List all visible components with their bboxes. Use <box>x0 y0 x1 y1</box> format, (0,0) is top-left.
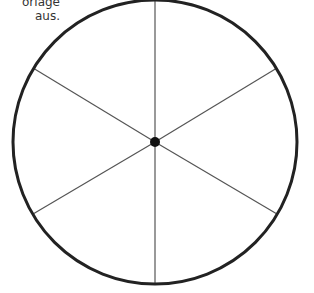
center-dot <box>150 137 160 147</box>
spoke-upper-right <box>155 68 277 142</box>
spoke-lower-left <box>33 142 155 214</box>
spoke-upper-left <box>33 68 155 142</box>
divided-circle <box>0 0 314 293</box>
spoke-lower-right <box>155 142 277 214</box>
